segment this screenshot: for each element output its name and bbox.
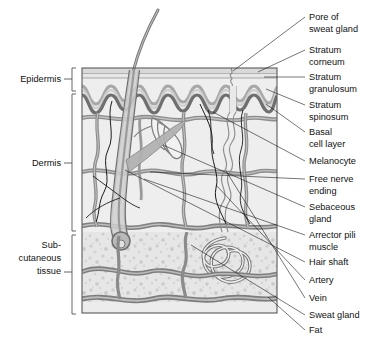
right-label-stratum-spinosum-line2: spinosum (309, 112, 349, 122)
right-label-arrector-pili-muscle-line1: Arrector pili (309, 230, 355, 240)
stratum-granulosum-layer (82, 74, 277, 78)
subcutaneous-fill (82, 232, 277, 302)
sweat-duct-epidermal-fill (230, 86, 236, 112)
right-label-stratum-corneum-line1: Stratum (309, 45, 342, 55)
right-label-fat: Fat (309, 325, 323, 335)
right-label-stratum-granulosum-line2: granulosum (309, 84, 357, 94)
right-label-free-nerve-ending-line2: ending (309, 186, 337, 196)
left-label-subcutaneous-line1: Sub- (42, 240, 61, 250)
right-label-melanocyte: Melanocyte (309, 156, 356, 166)
right-label-hair-shaft: Hair shaft (309, 257, 349, 267)
left-label-epidermis: Epidermis (20, 74, 61, 84)
right-label-pore-of-sweat-gland-line2: sweat gland (309, 24, 358, 34)
right-label-pore-of-sweat-gland-line1: Pore of (309, 12, 339, 22)
right-label-artery: Artery (309, 275, 334, 285)
right-label-basal-cell-layer-line2: cell layer (309, 139, 345, 149)
left-label-subcutaneous-line2: cutaneous (19, 253, 62, 263)
right-label-sebaceous-gland-line2: gland (309, 214, 331, 224)
right-label-free-nerve-ending-line1: Free nerve (309, 174, 353, 184)
left-label-dermis: Dermis (32, 158, 61, 168)
right-label-sebaceous-gland-line1: Sebaceous (309, 202, 355, 212)
right-label-stratum-granulosum-line1: Stratum (309, 72, 342, 82)
right-label-basal-cell-layer-line1: Basal (309, 127, 332, 137)
right-label-stratum-spinosum-line1: Stratum (309, 100, 342, 110)
deep-fascia-fill (82, 302, 277, 313)
left-label-subcutaneous-line3: tissue (37, 266, 61, 276)
epidermis-group (82, 68, 277, 78)
right-label-sweat-gland: Sweat gland (309, 310, 360, 320)
right-label-vein: Vein (309, 293, 327, 303)
skin-cross-section-figure: Epidermis Dermis Sub- cutaneous tissue P (0, 0, 375, 341)
stratum-corneum-layer (82, 68, 277, 74)
right-label-stratum-corneum-line2: corneum (309, 57, 345, 67)
right-label-arrector-pili-muscle-line2: muscle (309, 242, 338, 252)
